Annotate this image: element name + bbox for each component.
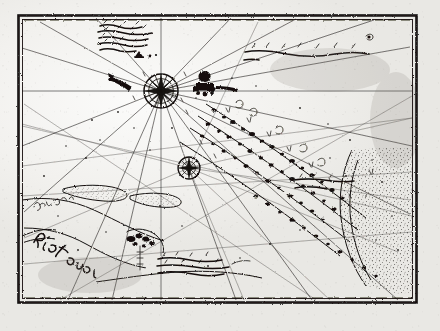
cartouche-upper-left bbox=[98, 19, 152, 52]
flourish-northwest bbox=[108, 73, 132, 91]
landmass-east bbox=[340, 148, 412, 294]
chart-artwork bbox=[0, 0, 440, 331]
chart-scan: Portolan sea chart (manuscript) ink on p… bbox=[0, 0, 440, 331]
cartouche-lower-centre bbox=[157, 252, 250, 276]
ink-blot-marker bbox=[134, 51, 157, 58]
secondary-compass-node bbox=[178, 157, 200, 179]
compass-rose bbox=[144, 74, 178, 108]
settlement-marker bbox=[193, 71, 238, 96]
elongated-shoal-west bbox=[63, 185, 181, 207]
coast-river-mouth bbox=[126, 229, 164, 270]
